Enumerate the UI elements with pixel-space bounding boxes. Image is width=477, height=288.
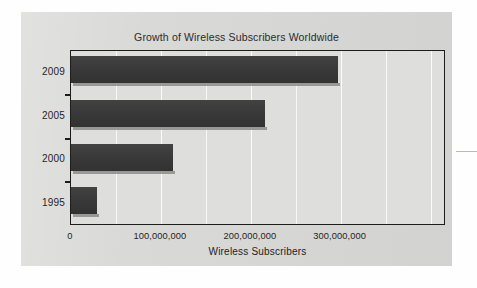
y-axis-label-1995: 1995	[21, 197, 65, 208]
x-axis-tick-label-200m: 200,000,000	[205, 231, 295, 241]
y-axis-tick	[65, 181, 71, 183]
y-axis-label-2009: 2009	[21, 66, 65, 77]
scanned-page: Growth of Wireless Subscribers Worldwide	[0, 0, 477, 288]
x-axis-tick-label-300m: 300,000,000	[295, 231, 385, 241]
scan-artifact-rule	[456, 151, 477, 152]
bar-2000[interactable]	[71, 144, 173, 171]
plot-area	[70, 50, 445, 225]
bar-shadow	[73, 214, 99, 217]
bar-shadow	[73, 83, 340, 86]
chart-title: Growth of Wireless Subscribers Worldwide	[21, 31, 452, 43]
chart-figure-panel: Growth of Wireless Subscribers Worldwide	[21, 12, 452, 266]
x-axis-tick-label-0: 0	[50, 231, 90, 241]
bar-shadow	[73, 171, 175, 174]
x-axis-title: Wireless Subscribers	[70, 246, 445, 257]
bar-shadow	[73, 127, 267, 130]
bar-2009[interactable]	[71, 56, 338, 83]
bar-2005[interactable]	[71, 100, 265, 127]
bar-1995[interactable]	[71, 187, 97, 214]
x-axis-tick-label-100m: 100,000,000	[115, 231, 205, 241]
y-axis-label-2000: 2000	[21, 153, 65, 164]
bars-group	[71, 51, 444, 224]
y-axis-tick	[65, 138, 71, 140]
y-axis-label-2005: 2005	[21, 110, 65, 121]
y-axis-tick	[65, 94, 71, 96]
